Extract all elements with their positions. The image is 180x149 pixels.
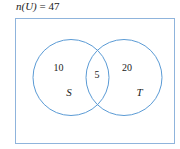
intersection-count: 5 — [95, 69, 100, 80]
t-only-count: 20 — [122, 62, 132, 73]
universal-set-rectangle — [16, 19, 175, 144]
s-only-count: 10 — [54, 62, 64, 73]
set-s-label: S — [66, 86, 72, 98]
venn-diagram: 10 5 20 S T — [0, 0, 180, 149]
set-t-label: T — [136, 86, 143, 98]
